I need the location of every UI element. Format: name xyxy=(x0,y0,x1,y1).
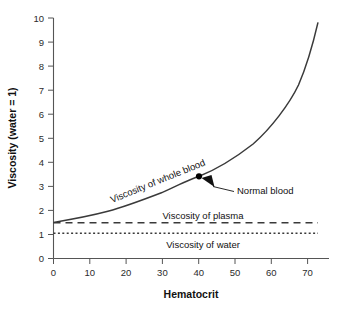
x-tick-label-10: 10 xyxy=(85,267,96,278)
viscosity-hematocrit-chart: 0 1 2 3 4 5 6 7 8 9 10 0 10 20 xyxy=(0,0,339,311)
water-line-label: Viscosity of water xyxy=(166,239,240,250)
x-tick-label-60: 60 xyxy=(266,267,277,278)
y-tick-label-2: 2 xyxy=(39,205,44,216)
y-tick-labels: 0 1 2 3 4 5 6 7 8 9 10 xyxy=(33,13,44,265)
y-tick-label-6: 6 xyxy=(39,109,44,120)
chart-canvas: 0 1 2 3 4 5 6 7 8 9 10 0 10 20 xyxy=(0,0,339,311)
x-tick-label-20: 20 xyxy=(121,267,132,278)
y-axis-title: Viscosity (water = 1) xyxy=(6,87,18,188)
y-tick-label-7: 7 xyxy=(39,85,44,96)
y-tick-label-8: 8 xyxy=(39,61,44,72)
y-tick-marks xyxy=(48,18,54,259)
x-tick-label-50: 50 xyxy=(230,267,241,278)
y-tick-label-3: 3 xyxy=(39,181,44,192)
normal-blood-leader-line xyxy=(213,187,234,192)
x-tick-label-0: 0 xyxy=(51,267,56,278)
normal-blood-arrowhead xyxy=(202,175,215,187)
y-tick-label-9: 9 xyxy=(39,37,44,48)
y-tick-label-10: 10 xyxy=(33,13,44,24)
normal-blood-callout-label: Normal blood xyxy=(237,185,294,196)
plasma-line-label: Viscosity of plasma xyxy=(162,210,244,221)
y-tick-label-4: 4 xyxy=(39,157,44,168)
x-tick-labels: 0 10 20 30 40 50 60 70 xyxy=(51,267,313,278)
y-tick-label-5: 5 xyxy=(39,133,44,144)
x-axis-title: Hematocrit xyxy=(164,288,219,300)
y-tick-label-0: 0 xyxy=(39,253,44,264)
x-tick-label-40: 40 xyxy=(193,267,204,278)
normal-blood-marker-dot xyxy=(196,173,202,179)
x-tick-marks xyxy=(54,259,308,265)
x-tick-label-30: 30 xyxy=(157,267,168,278)
x-tick-label-70: 70 xyxy=(302,267,313,278)
y-tick-label-1: 1 xyxy=(39,229,44,240)
whole-blood-curve-label: Viscosity of whole blood xyxy=(109,157,207,205)
